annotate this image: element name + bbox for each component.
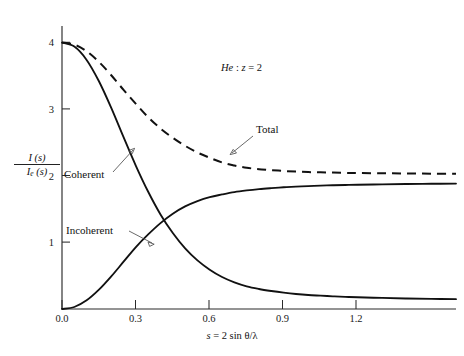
plot-canvas: 4 3 2 1 0.0 0.3 0.6 0.9 1.2 He : z = 2 bbox=[0, 0, 464, 356]
x-axis-label: s = 2 sin θ/λ bbox=[0, 330, 464, 341]
leader-line-coherent bbox=[113, 150, 133, 172]
curve-coherent bbox=[62, 43, 456, 300]
y-tick-label-1: 1 bbox=[49, 237, 54, 248]
x-tick-label-1p2: 1.2 bbox=[349, 313, 362, 324]
y-axis-label-denominator-rest: (s) bbox=[34, 166, 48, 177]
annotation-value: 2 bbox=[257, 62, 262, 73]
x-ticks-group: 0.0 0.3 0.6 0.9 1.2 bbox=[55, 300, 362, 324]
curve-incoherent bbox=[62, 184, 456, 309]
curves-group bbox=[62, 43, 456, 309]
annotation-separator: : bbox=[233, 62, 241, 73]
x-axis-label-equals: = bbox=[211, 330, 222, 341]
y-tick-label-3: 3 bbox=[49, 104, 54, 115]
annotation-element: He bbox=[220, 62, 234, 73]
xray-scattering-figure: 4 3 2 1 0.0 0.3 0.6 0.9 1.2 He : z = 2 bbox=[0, 0, 464, 356]
curve-labels-group: Coherent Incoherent Total bbox=[64, 123, 278, 236]
y-ticks-group: 4 3 2 1 bbox=[49, 37, 70, 248]
y-axis-label-numerator: I (s) bbox=[14, 152, 60, 164]
x-tick-label-0p9: 0.9 bbox=[276, 313, 289, 324]
leaders-group bbox=[113, 136, 253, 246]
annotation-equals: = bbox=[246, 62, 257, 73]
leader-line-total bbox=[232, 136, 253, 153]
curve-label-coherent: Coherent bbox=[64, 168, 104, 180]
x-axis-label-rhs: 2 sin θ/λ bbox=[222, 330, 258, 341]
chart-annotation-He: He : z = 2 bbox=[220, 62, 262, 73]
x-tick-label-0p3: 0.3 bbox=[129, 313, 142, 324]
x-tick-label-0: 0.0 bbox=[55, 313, 68, 324]
y-axis-label-denominator: Ie (s) bbox=[14, 164, 60, 178]
x-tick-label-0p6: 0.6 bbox=[202, 313, 215, 324]
curve-label-total: Total bbox=[256, 123, 278, 135]
curve-label-incoherent: Incoherent bbox=[66, 224, 113, 236]
y-tick-label-4: 4 bbox=[49, 37, 55, 48]
y-axis-label: I (s) Ie (s) bbox=[14, 152, 60, 179]
